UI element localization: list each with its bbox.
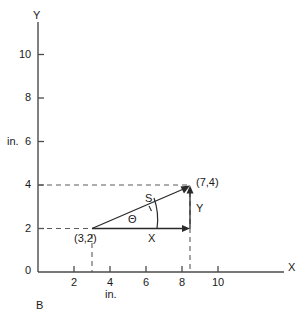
x-component-arrowhead <box>182 225 190 232</box>
start-point-label: (3,2) <box>74 233 97 244</box>
x-component-label: X <box>148 233 155 244</box>
x-axis-ticks <box>74 266 218 272</box>
end-point-label: (7,4) <box>196 177 219 188</box>
angle-arc <box>154 198 158 229</box>
x-axis-name-label: X <box>288 262 295 273</box>
y-tick-label-0: 0 <box>25 265 31 276</box>
y-tick-label-2: 2 <box>25 223 31 234</box>
y-component-label: Y <box>196 203 203 214</box>
x-tick-label-2: 2 <box>71 277 77 288</box>
y-tick-label-4: 4 <box>25 179 31 190</box>
diagram-canvas <box>0 0 306 322</box>
y-axis-ticks <box>38 55 44 229</box>
figure-caption: B <box>36 300 43 311</box>
x-component-group <box>92 225 190 232</box>
vector-s-group <box>92 186 190 229</box>
x-tick-label-10: 10 <box>212 277 224 288</box>
vector-label-s: S <box>145 193 152 204</box>
x-axis-unit-label: in. <box>105 289 117 300</box>
vector-diagram-figure: 10 8 6 4 2 0 in. Y 2 4 6 8 10 in. X (3,2… <box>0 0 306 322</box>
x-tick-label-6: 6 <box>143 277 149 288</box>
y-tick-label-8: 8 <box>25 92 31 103</box>
y-tick-label-6: 6 <box>25 136 31 147</box>
vector-s-line <box>92 188 187 229</box>
y-axis-name-label: Y <box>33 10 40 21</box>
x-tick-label-4: 4 <box>107 277 113 288</box>
y-component-group <box>187 186 194 229</box>
y-tick-label-10: 10 <box>19 49 31 60</box>
vector-s-tick-mark <box>149 206 152 211</box>
y-axis-unit-label: in. <box>7 136 19 147</box>
angle-label-theta: Θ <box>128 214 137 225</box>
x-tick-label-8: 8 <box>179 277 185 288</box>
